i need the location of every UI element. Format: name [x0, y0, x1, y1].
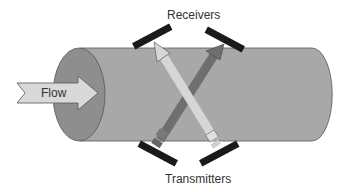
flow-label: Flow: [41, 86, 66, 100]
transmitters-label: Transmitters: [165, 172, 231, 186]
ultrasonic-flowmeter-diagram: Receivers Transmitters Flow: [0, 0, 351, 192]
receivers-label: Receivers: [167, 8, 220, 22]
receiver-left: [132, 23, 172, 49]
